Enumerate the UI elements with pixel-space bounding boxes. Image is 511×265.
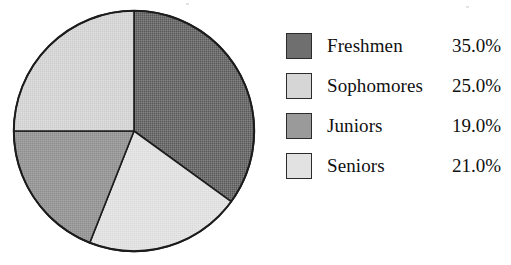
chart-legend: Freshmen 35.0% Sophomores 25.0% Juniors … (283, 28, 503, 188)
legend-label-juniors: Juniors (327, 111, 383, 141)
legend-value-juniors: 19.0% (411, 111, 501, 141)
pie-chart-figure: Freshmen 35.0% Sophomores 25.0% Juniors … (0, 0, 511, 265)
legend-label-freshmen: Freshmen (327, 31, 403, 61)
legend-item-seniors[interactable]: Seniors 21.0% (283, 148, 503, 188)
legend-swatch-seniors (286, 153, 312, 179)
legend-item-juniors[interactable]: Juniors 19.0% (283, 108, 503, 148)
legend-value-freshmen: 35.0% (411, 31, 501, 61)
legend-swatch-juniors (286, 113, 312, 139)
legend-swatch-sophomores (286, 73, 312, 99)
legend-label-seniors: Seniors (327, 151, 385, 181)
legend-value-sophomores: 25.0% (411, 71, 501, 101)
legend-swatch-freshmen (286, 33, 312, 59)
scan-artifact (466, 6, 469, 8)
legend-item-sophomores[interactable]: Sophomores 25.0% (283, 68, 503, 108)
pie-slice-sophomores[interactable] (14, 11, 134, 131)
pie-slices-group (14, 11, 254, 251)
pie-chart-graphic (8, 5, 263, 260)
pie-svg (8, 5, 263, 260)
legend-item-freshmen[interactable]: Freshmen 35.0% (283, 28, 503, 68)
legend-value-seniors: 21.0% (411, 151, 501, 181)
legend-label-sophomores: Sophomores (327, 71, 423, 101)
